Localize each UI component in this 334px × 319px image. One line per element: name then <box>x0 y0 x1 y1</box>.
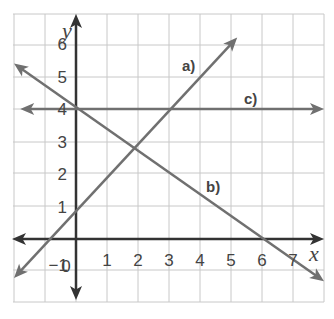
x-tick-label: 3 <box>164 251 173 270</box>
x-tick-label: 4 <box>195 251 204 270</box>
x-tick-label: 2 <box>133 251 142 270</box>
y-tick-label: 5 <box>58 68 67 87</box>
coordinate-plane: 01234567−1123456yxa)b)c) <box>0 0 334 319</box>
y-tick-label: 2 <box>58 165 67 184</box>
x-axis-label: x <box>308 241 319 266</box>
x-tick-label: 6 <box>257 251 266 270</box>
y-tick-label: −1 <box>49 256 68 275</box>
x-tick-label: 1 <box>102 251 111 270</box>
x-tick-label: 5 <box>226 251 235 270</box>
y-tick-label: 4 <box>58 100 67 119</box>
y-tick-label: 3 <box>58 133 67 152</box>
label-a: a) <box>182 57 195 74</box>
label-c: c) <box>244 90 257 107</box>
x-tick-label: 7 <box>288 251 297 270</box>
label-b: b) <box>206 178 220 195</box>
labels: 01234567−1123456yxa)b)c) <box>49 18 319 276</box>
y-tick-label: 1 <box>58 198 67 217</box>
y-axis-label: y <box>60 18 72 43</box>
